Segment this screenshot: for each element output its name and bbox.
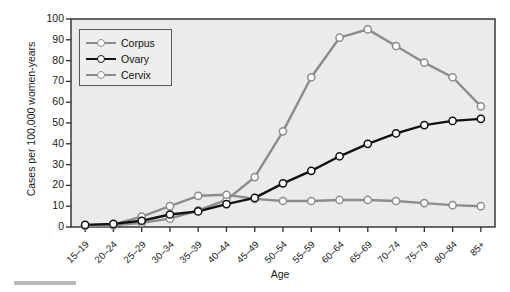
y-tick-label: 10 [36,199,64,211]
y-tick-label: 80 [36,54,64,66]
legend-label-ovary: Ovary [121,53,149,65]
legend-marker-ovary [97,55,105,63]
legend-key-ovary [86,53,116,65]
y-tick-label: 100 [36,12,64,24]
y-tick-label: 90 [36,33,64,45]
legend-key-corpus [86,37,116,49]
x-axis-ticks [85,227,481,232]
legend-key-cervix [86,69,116,81]
y-tick-label: 30 [36,158,64,170]
legend-marker-cervix [97,71,105,79]
y-axis-ticks [66,19,71,227]
y-tick-label: 20 [36,178,64,190]
y-tick-label: 0 [36,220,64,232]
y-tick-label: 50 [36,116,64,128]
y-tick-label: 70 [36,74,64,86]
legend-label-corpus: Corpus [121,37,155,49]
legend-marker-corpus [97,39,105,47]
legend-item-cervix: Cervix [86,67,151,83]
footer-rule [14,281,76,285]
x-axis-title: Age [60,268,500,280]
legend-item-corpus: Corpus [86,35,155,51]
chart-figure: Cases per 100,000 women-years 0102030405… [0,0,510,292]
legend-item-ovary: Ovary [86,51,149,67]
legend-label-cervix: Cervix [121,69,151,81]
y-tick-label: 60 [36,95,64,107]
chart-legend: Corpus Ovary Cervix [79,29,172,86]
y-tick-label: 40 [36,137,64,149]
